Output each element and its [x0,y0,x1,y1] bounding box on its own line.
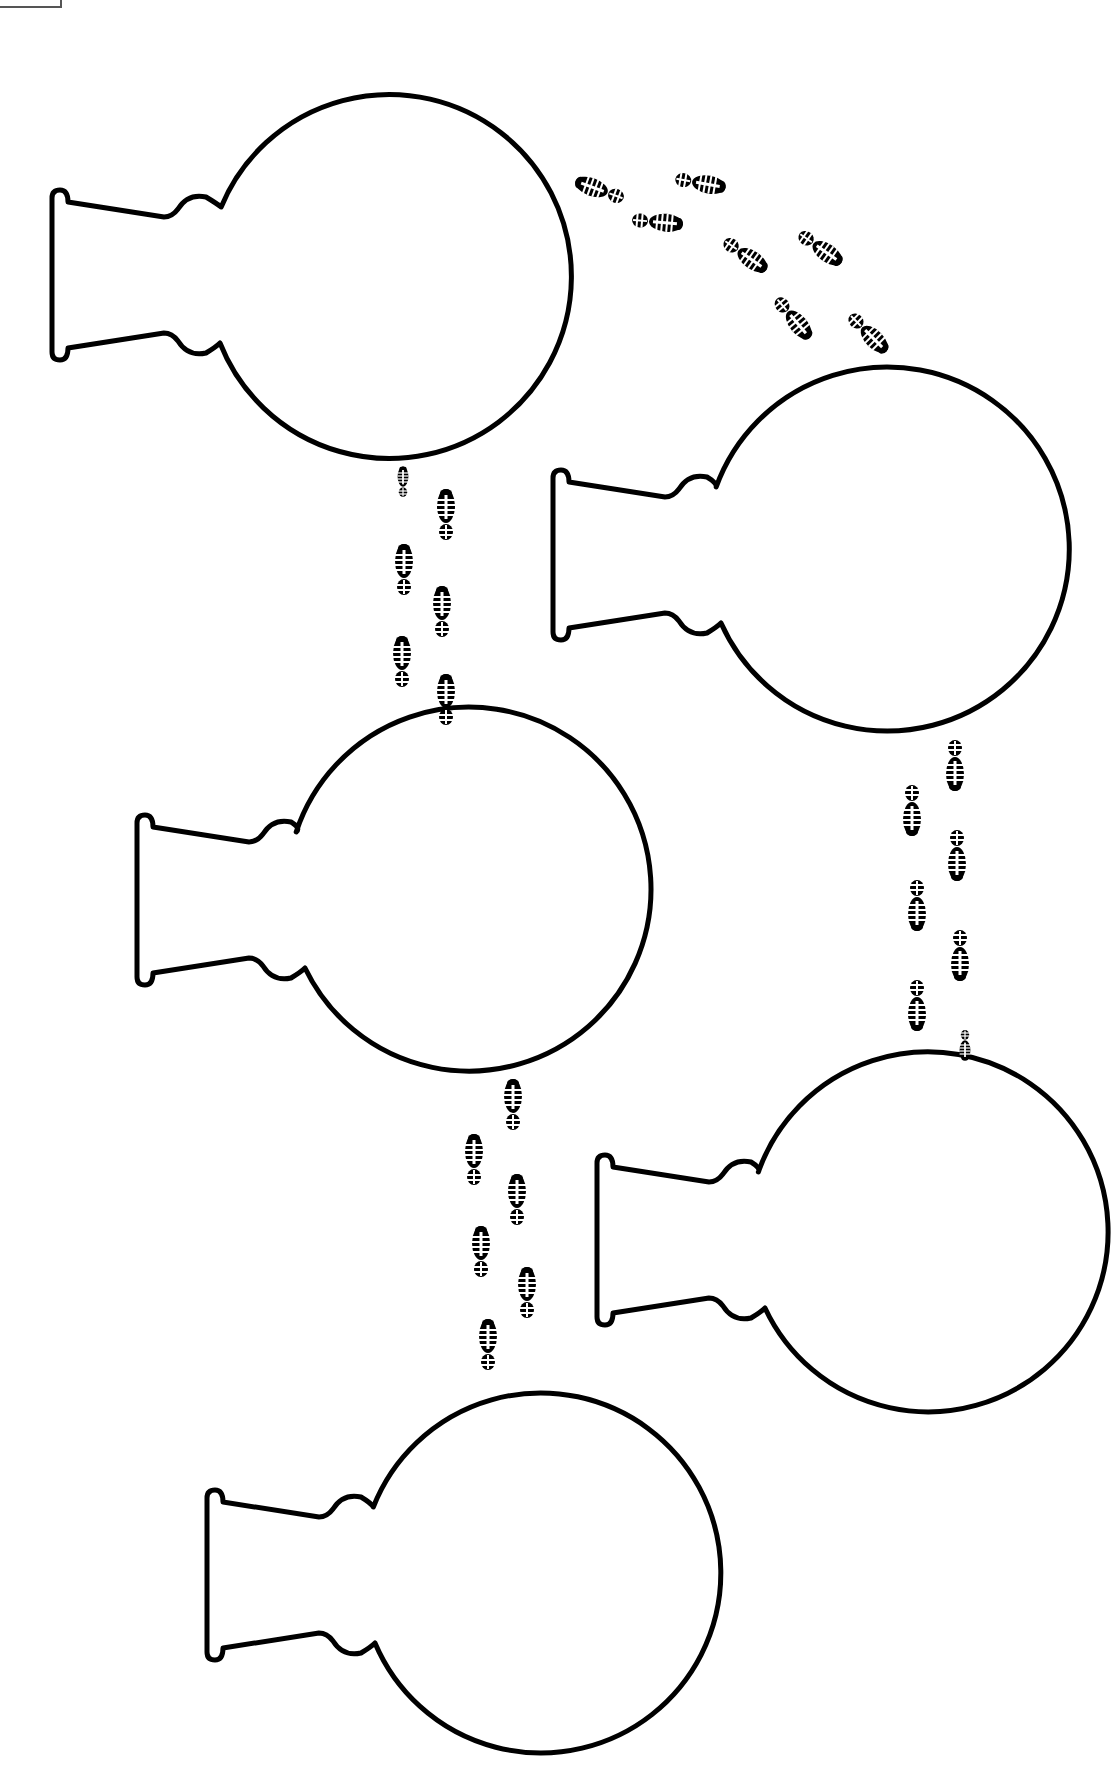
trail-2-to-4 [903,740,970,1061]
footprint-icon [504,1079,522,1130]
footprint-icon [794,226,846,270]
footprint-icon [398,466,409,497]
flask-2-outline [553,367,1069,731]
footprint-icon [908,980,926,1031]
footprint-icon [437,489,455,540]
footprint-icon [479,1319,497,1370]
footprint-icon [437,674,455,725]
footprint-icon [518,1267,536,1318]
footprint-icon [395,544,413,595]
footprint-icon [951,930,969,981]
footprint-icon [908,880,926,931]
trail-3-to-1 [393,466,455,725]
flask-maze-illustration [0,0,1120,1780]
footprint-icon [674,170,727,197]
footprint-icon [472,1226,490,1277]
flask-1-outline [52,94,571,458]
footprint-icon [946,740,964,791]
footprint-icon [844,309,893,358]
trail-1-to-2 [572,170,892,358]
footprint-icon [770,293,817,344]
footprint-icon [508,1174,526,1225]
footprint-icon [631,211,683,233]
flask-5-outline [207,1393,721,1753]
footprint-icon [393,636,411,687]
flask-4-outline [597,1052,1108,1412]
footprint-icon [960,1030,971,1061]
trail-3-to-5 [465,1079,536,1370]
footprint-icon [465,1134,483,1185]
footprint-icon [572,173,626,207]
flask-3-outline [137,707,651,1071]
footprint-icon [719,233,771,277]
footprint-icon [433,586,451,637]
footprint-icon [948,830,966,881]
flasks-layer [52,94,1108,1752]
footprint-icon [903,785,921,836]
